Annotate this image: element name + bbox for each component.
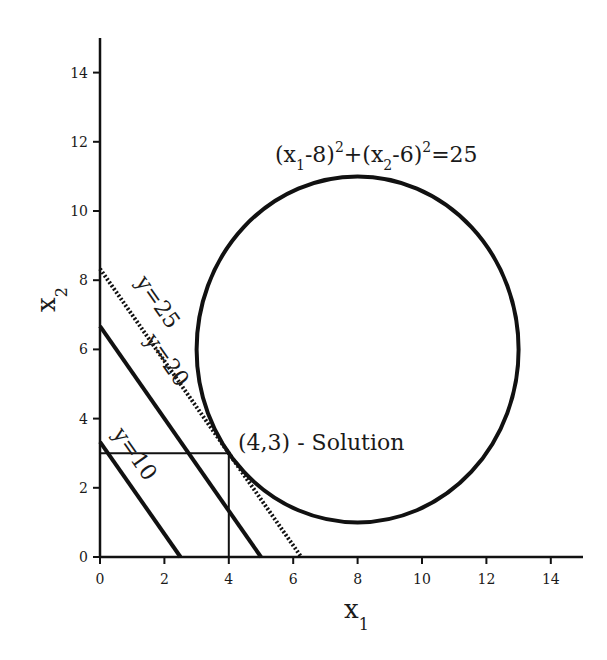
constraint-circle [197,176,519,522]
y-tick-label: 6 [79,341,88,357]
y-tick-label: 4 [79,411,88,427]
y-tick-label: 12 [70,134,88,150]
x-tick-label: 4 [224,571,233,587]
x-tick-label: 12 [477,571,495,587]
y-axis-label: x2 [31,287,71,312]
line-y20-label: y=20 [139,328,194,391]
x-tick-label: 6 [289,571,298,587]
x-axis-label: x1 [344,594,369,634]
circle-equation-label: (x1-8)2+(x2-6)2=25 [275,139,478,173]
x-tick-label: 8 [353,571,362,587]
line-y25-label: y=25 [130,270,185,333]
y-tick-label: 0 [79,549,88,565]
y-tick-label: 14 [70,65,88,81]
y-tick-label: 10 [70,203,88,219]
x-tick-label: 0 [96,571,105,587]
x-tick-label: 10 [413,571,431,587]
y-tick-label: 8 [79,272,88,288]
solution-label: (4,3) - Solution [238,430,404,455]
x-tick-label: 2 [160,571,169,587]
chart: 0246810121402468101214 (x1-8)2+(x2-6)2=2… [0,0,607,660]
x-tick-label: 14 [542,571,560,587]
y-tick-label: 2 [79,480,88,496]
